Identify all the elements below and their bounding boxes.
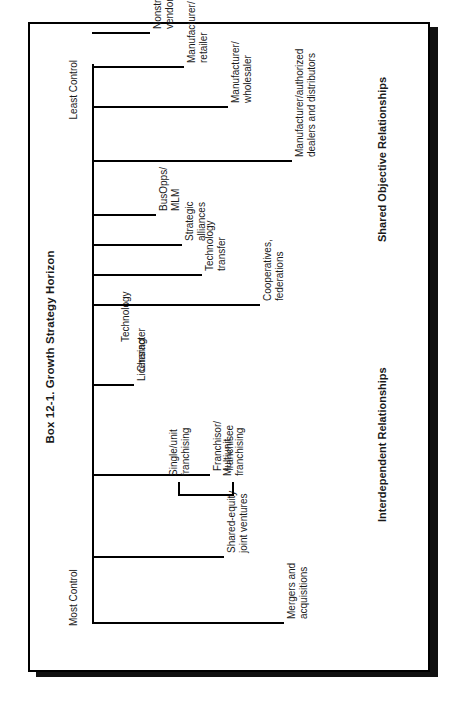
node-label-line: franchising	[234, 428, 246, 476]
node-label: Multiunitfranchising	[222, 428, 245, 476]
node-label-line: MLM	[170, 167, 182, 211]
node-label-line: dealers and distributors	[306, 49, 318, 157]
bracket-arm-bottom	[232, 482, 234, 496]
node-label-line: transfer	[216, 220, 228, 271]
node-label-line: acquisitions	[298, 563, 310, 619]
node-label-line: Manufacturer/	[230, 41, 242, 103]
node-label: Mergers andacquisitions	[286, 563, 309, 619]
node-label-line: Multiunit	[222, 428, 234, 476]
branch-tick	[92, 384, 134, 386]
node-label: Manufacturer/retailer	[186, 1, 209, 63]
node-label: Single/unitfranchising	[168, 428, 191, 476]
figure-page: Box 12-1. Growth Strategy Horizon Most C…	[0, 0, 455, 703]
node-label: Manufacturer/authorizeddealers and distr…	[294, 49, 317, 157]
node-label-line: Shared-equity	[226, 491, 238, 553]
node-label: Cooperatives,federations	[262, 239, 285, 301]
node-label: Character	[136, 328, 148, 372]
control-spectrum-axis	[92, 64, 94, 624]
node-label: BusOpps/MLM	[158, 167, 181, 211]
node-label-line: franchising	[180, 428, 192, 476]
node-label-line: Cooperatives,	[262, 239, 274, 301]
branch-tick	[92, 274, 202, 276]
node-label: Strategicalliances	[184, 202, 207, 241]
branch-tick	[92, 244, 182, 246]
figure-title: Box 12-1. Growth Strategy Horizon	[44, 22, 56, 672]
node-label-line: Manufacturer/	[186, 1, 198, 63]
branch-tick	[92, 160, 292, 162]
node-label-line: Manufacturer/authorized	[294, 49, 306, 157]
node-label: Technologytransfer	[204, 220, 227, 271]
branch-tick	[92, 474, 210, 476]
node-label-line: Strategic	[184, 202, 196, 241]
node-label: Nonstrategicvendor/buyer	[152, 0, 175, 29]
node-label-line: vendor/buyer	[164, 0, 176, 29]
node-label-line: Character	[136, 328, 148, 372]
bracket-arm-top	[178, 482, 180, 496]
node-label-line: Nonstrategic	[152, 0, 164, 29]
bracket-stem	[178, 494, 234, 496]
branch-tick	[92, 556, 224, 558]
branch-tick	[92, 66, 184, 68]
branch-tick	[92, 106, 228, 108]
node-label-line: retailer	[198, 1, 210, 63]
branch-tick	[92, 622, 284, 624]
node-label: Manufacturer/wholesaler	[230, 41, 253, 103]
node-label-line: Technology	[120, 291, 132, 342]
node-label-line: federations	[274, 239, 286, 301]
node-label-line: Mergers and	[286, 563, 298, 619]
node-label: Technology	[120, 291, 132, 342]
axis-caption-least-control: Least Control	[68, 60, 79, 119]
node-label-line: joint ventures	[238, 491, 250, 553]
branch-tick	[92, 304, 260, 306]
branch-tick	[92, 214, 156, 216]
node-label-line: BusOpps/	[158, 167, 170, 211]
branch-tick	[92, 32, 150, 34]
node-label: Shared-equityjoint ventures	[226, 491, 249, 553]
section-label-interdependent: Interdependent Relationships	[376, 367, 388, 522]
section-label-shared-objective: Shared Objective Relationships	[376, 77, 388, 242]
node-label-line: alliances	[196, 202, 208, 241]
axis-caption-most-control: Most Control	[68, 569, 79, 626]
rotated-figure-canvas: Box 12-1. Growth Strategy Horizon Most C…	[28, 22, 430, 672]
node-label-line: Single/unit	[168, 428, 180, 476]
node-label-line: wholesaler	[242, 41, 254, 103]
